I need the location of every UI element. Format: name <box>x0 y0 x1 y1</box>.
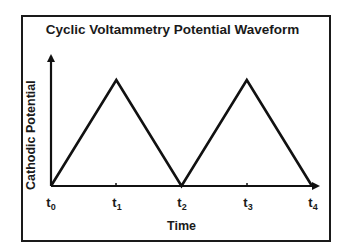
x-tick-t2: t2 <box>177 195 186 212</box>
x-tick-t3: t3 <box>243 195 252 212</box>
x-axis-label: Time <box>0 219 345 233</box>
chart-plot <box>0 0 345 252</box>
x-tick-t1: t1 <box>112 195 121 212</box>
x-tick-t4: t4 <box>308 195 317 212</box>
x-tick-t0: t0 <box>46 195 55 212</box>
potential-waveform <box>51 80 312 186</box>
